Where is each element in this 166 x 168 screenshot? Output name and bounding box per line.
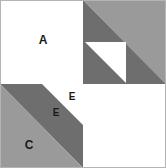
- quadrant-bottom-right-square-d: [83, 84, 166, 168]
- region-label-a: A: [39, 33, 48, 47]
- geometric-figure-canvas: A E E C: [0, 0, 166, 168]
- region-label-c: C: [25, 138, 34, 152]
- quadrant-top-right: [83, 0, 166, 84]
- region-label-e-lower: E: [53, 107, 60, 118]
- region-label-e-upper: E: [69, 91, 76, 102]
- figure-svg: A E E C: [0, 0, 166, 168]
